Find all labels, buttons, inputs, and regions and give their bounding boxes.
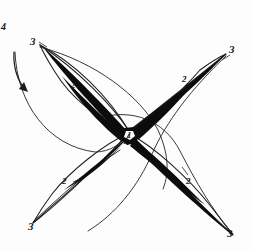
label-4-left: 4 [1, 22, 6, 32]
four-lobe-diagram [0, 0, 253, 251]
paper-background [0, 0, 253, 251]
label-2-lower-left: 2 [62, 177, 67, 186]
figure-root: 4 3 3 3 3 2 2 2 2 1 [0, 0, 253, 251]
label-3-bottom-right: 3 [227, 228, 233, 239]
label-3-top-right: 3 [229, 44, 235, 55]
label-2-lower-right: 2 [186, 177, 191, 186]
label-2-upper-right: 2 [182, 75, 187, 84]
label-3-top-left: 3 [30, 36, 36, 47]
label-3-bottom-left: 3 [28, 221, 34, 232]
label-1-center: 1 [127, 131, 132, 140]
label-2-upper-left: 2 [71, 81, 76, 90]
